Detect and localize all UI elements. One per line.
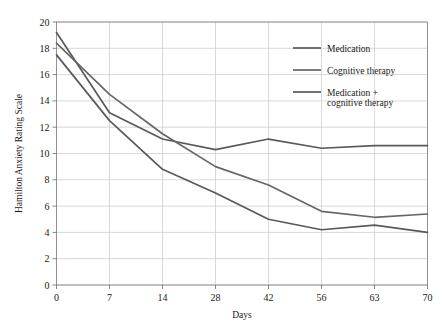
x-tick-label: 14: [158, 292, 168, 303]
x-axis-tick-labels: 07142842566370: [54, 292, 433, 303]
x-tick-label: 28: [211, 292, 221, 303]
y-tick-label: 20: [40, 17, 50, 28]
y-tick-label: 12: [40, 122, 50, 133]
axis-tickmarks: [53, 22, 428, 289]
y-tick-label: 6: [45, 201, 50, 212]
chart-legend: MedicationCognitive therapyMedication +c…: [293, 44, 396, 109]
y-tick-label: 0: [45, 280, 50, 291]
x-tick-label: 63: [370, 292, 380, 303]
anxiety-line-chart: 02468101214161820 07142842566370 DaysHam…: [0, 0, 443, 329]
gridlines-group: [57, 22, 428, 285]
x-axis-title: Days: [232, 310, 252, 320]
y-axis-tick-labels: 02468101214161820: [40, 17, 50, 291]
x-tick-label: 70: [423, 292, 433, 303]
legend-label-1: Cognitive therapy: [327, 66, 396, 76]
x-tick-label: 42: [264, 292, 274, 303]
y-tick-label: 16: [40, 69, 50, 80]
x-tick-label: 56: [317, 292, 327, 303]
chart-canvas: 02468101214161820 07142842566370 DaysHam…: [0, 0, 443, 329]
y-tick-label: 2: [45, 253, 50, 264]
legend-label-2: Medication +: [327, 88, 378, 98]
legend-label-2-line2: cognitive therapy: [327, 98, 393, 108]
y-tick-label: 18: [40, 43, 50, 54]
x-tick-label: 0: [54, 292, 59, 303]
legend-label-0: Medication: [327, 44, 371, 54]
x-tick-label: 7: [107, 292, 112, 303]
axis-titles: DaysHamilton Anxiety Rating Scale: [14, 94, 252, 320]
y-tick-label: 10: [40, 148, 50, 159]
data-series-group: [57, 33, 428, 233]
y-tick-label: 14: [40, 95, 50, 106]
y-tick-label: 8: [45, 174, 50, 185]
y-tick-label: 4: [45, 227, 50, 238]
y-axis-title: Hamilton Anxiety Rating Scale: [14, 94, 24, 213]
